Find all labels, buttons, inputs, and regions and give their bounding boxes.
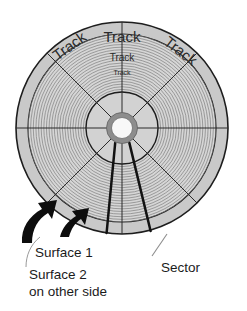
track-label-middle-top: Track xyxy=(110,52,136,63)
sector-leader-line xyxy=(152,234,167,256)
surface-1-label: Surface 1 xyxy=(35,245,93,260)
surface-2-label: Surface 2 xyxy=(29,267,87,282)
track-label-inner-top: Track xyxy=(113,69,131,76)
platter-svg-canvas: Track Track Track Track Track Sector Sur… xyxy=(0,0,247,311)
surface-1-arrow-large xyxy=(22,200,57,243)
sector-label: Sector xyxy=(161,260,201,275)
track-label-outer-top: Track xyxy=(104,28,141,45)
captions-group: Surface 1 Surface 2 on other side xyxy=(29,245,107,299)
spindle-hole xyxy=(112,118,133,139)
surface-2-continued-label: on other side xyxy=(29,284,107,299)
sector-callout-group: Sector xyxy=(152,234,201,275)
spindle-hub xyxy=(107,113,138,144)
disk-platter-figure: Track Track Track Track Track Sector Sur… xyxy=(0,0,247,311)
